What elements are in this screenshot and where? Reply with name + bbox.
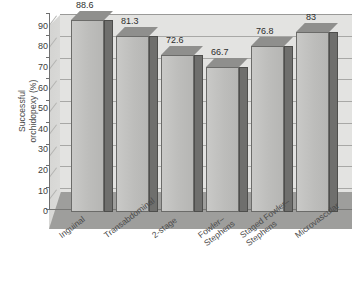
x-label-transabdominal-line-1: Transabdominal bbox=[102, 196, 156, 240]
x-axis-category-labels: Inguinal Transabdominal 2-stage Fowler– … bbox=[0, 0, 352, 293]
x-label-inguinal: Inguinal bbox=[57, 214, 87, 240]
x-label-inguinal-line-1: Inguinal bbox=[57, 214, 87, 240]
x-label-fowler-stephens: Fowler– Stephens bbox=[196, 210, 237, 248]
x-label-staged-fowler-stephens: Staged Fowler– Stephens bbox=[238, 196, 298, 248]
x-label-transabdominal: Transabdominal bbox=[102, 196, 156, 240]
bar-chart: Successful orchidopexy (%) 0 10 20 30 40… bbox=[0, 0, 352, 293]
x-label-2-stage: 2-stage bbox=[150, 215, 179, 240]
x-label-microvascular-line-1: Microvascular bbox=[293, 200, 341, 240]
x-label-microvascular: Microvascular bbox=[293, 200, 341, 240]
x-label-2-stage-line-1: 2-stage bbox=[150, 215, 179, 240]
